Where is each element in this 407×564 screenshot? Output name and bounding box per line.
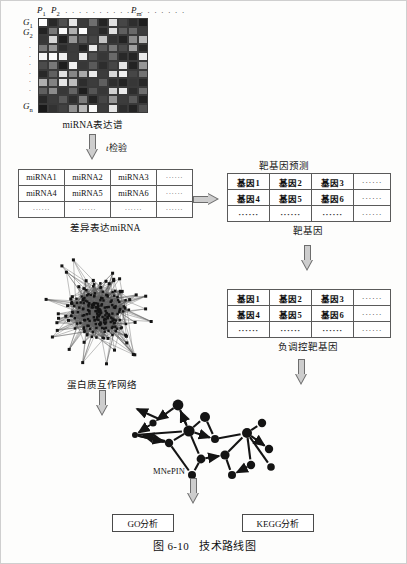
- heatmap-cell: [98, 35, 108, 44]
- heatmap-cell: [68, 52, 78, 61]
- heatmap-cell: [48, 95, 58, 104]
- table-cell: 基因4: [228, 190, 270, 206]
- table-cell: miRNA3: [111, 170, 157, 186]
- ppi-network-caption: 蛋白质互作网络: [27, 377, 177, 391]
- table-cell: ······: [157, 186, 193, 202]
- heatmap-cell: [88, 61, 98, 70]
- heatmap-cell: [138, 61, 148, 70]
- table-cell: ······: [270, 322, 312, 338]
- heatmap-cell: [78, 44, 88, 53]
- table-cell: ······: [354, 290, 391, 306]
- heatmap-cell: [68, 61, 78, 70]
- arrow-negative-regulated-to-mnepin: [295, 359, 308, 385]
- arrow-mnepin-to-analyses: [187, 478, 200, 504]
- heatmap-cell: [128, 52, 138, 61]
- mirna-heatmap: [38, 18, 148, 113]
- heatmap-cell: [78, 70, 88, 79]
- arrow-mirna-to-target-genes: [193, 193, 219, 206]
- heatmap-cell: [58, 70, 68, 79]
- heatmap-cell: [38, 61, 48, 70]
- heatmap-cell: [48, 70, 58, 79]
- heatmap-cell: [58, 35, 68, 44]
- table-cell: ······: [354, 174, 391, 190]
- table-cell: ······: [354, 190, 391, 206]
- table-cell: ······: [354, 306, 391, 322]
- heatmap-cell: [108, 87, 118, 96]
- heatmap-col-label-second: P2: [51, 5, 60, 17]
- heatmap-cell: [68, 44, 78, 53]
- kegg-analysis-box[interactable]: KEGG分析: [242, 514, 314, 532]
- heatmap-cell: [38, 78, 48, 87]
- heatmap-cell: [128, 18, 138, 27]
- heatmap-cell: [138, 18, 148, 27]
- heatmap-cell: [98, 70, 108, 79]
- heatmap-cell: [118, 78, 128, 87]
- heatmap-cell: [78, 78, 88, 87]
- heatmap-cell: [98, 52, 108, 61]
- heatmap-cell: [138, 70, 148, 79]
- heatmap-cell: [98, 78, 108, 87]
- table-cell: miRNA1: [19, 170, 65, 186]
- heatmap-cell: [128, 104, 138, 113]
- heatmap-cell: [68, 70, 78, 79]
- heatmap-cell: [128, 35, 138, 44]
- heatmap-cell: [108, 95, 118, 104]
- table-row: ······ ······ ······ ······: [228, 206, 391, 222]
- heatmap-cell: [38, 104, 48, 113]
- heatmap-cell: [138, 35, 148, 44]
- heatmap-cell: [118, 87, 128, 96]
- heatmap-cell: [98, 104, 108, 113]
- heatmap-cell: [88, 35, 98, 44]
- heatmap-cell: [78, 61, 88, 70]
- heatmap-cell: [78, 18, 88, 27]
- table-row: miRNA4 miRNA5 miRNA6 ······: [19, 186, 193, 202]
- table-cell: 基因3: [312, 290, 354, 306]
- heatmap-cell: [88, 95, 98, 104]
- heatmap-cell: [78, 87, 88, 96]
- heatmap-cell: [48, 61, 58, 70]
- table-cell: 基因3: [312, 174, 354, 190]
- table-row: ······ ······ ······ ······: [19, 202, 193, 218]
- table-row: 基因1 基因2 基因3 ······: [228, 174, 391, 190]
- heatmap-cell: [108, 35, 118, 44]
- heatmap-cell: [138, 95, 148, 104]
- table-cell: miRNA6: [111, 186, 157, 202]
- table-row: 基因4 基因5 基因6 ······: [228, 306, 391, 322]
- heatmap-cell: [118, 35, 128, 44]
- target-prediction-label: 靶基因预测: [259, 158, 310, 172]
- table-cell: miRNA2: [65, 170, 111, 186]
- table-cell: miRNA4: [19, 186, 65, 202]
- heatmap-cell: [138, 52, 148, 61]
- heatmap-cell: [88, 70, 98, 79]
- heatmap-cell: [78, 104, 88, 113]
- heatmap-cell: [38, 27, 48, 36]
- go-analysis-box[interactable]: GO分析: [112, 514, 174, 532]
- heatmap-cell: [48, 27, 58, 36]
- heatmap-cell: [128, 78, 138, 87]
- heatmap-cell: [88, 18, 98, 27]
- heatmap-cell: [68, 35, 78, 44]
- heatmap-cell: [68, 87, 78, 96]
- heatmap-cell: [58, 44, 68, 53]
- table-cell: ······: [354, 206, 391, 222]
- table-cell: 基因5: [270, 190, 312, 206]
- table-row: 基因4 基因5 基因6 ······: [228, 190, 391, 206]
- heatmap-cell: [38, 52, 48, 61]
- heatmap-cell: [38, 35, 48, 44]
- heatmap-cell: [38, 95, 48, 104]
- differential-mirna-table: miRNA1 miRNA2 miRNA3 ······ miRNA4 miRNA…: [18, 169, 193, 218]
- heatmap-cell: [68, 78, 78, 87]
- heatmap-cell: [88, 52, 98, 61]
- table-cell: 基因6: [312, 190, 354, 206]
- table-cell: 基因1: [228, 174, 270, 190]
- heatmap-cell: [88, 27, 98, 36]
- heatmap-cell: [78, 52, 88, 61]
- negative-regulated-gene-caption: 负调控靶基因: [227, 339, 389, 353]
- heatmap-cell: [108, 18, 118, 27]
- t-test-label: t检验: [106, 141, 127, 154]
- heatmap-cell: [58, 87, 68, 96]
- heatmap-cell: [138, 78, 148, 87]
- table-cell: ······: [157, 170, 193, 186]
- heatmap-grid: [38, 18, 148, 113]
- heatmap-cell: [48, 35, 58, 44]
